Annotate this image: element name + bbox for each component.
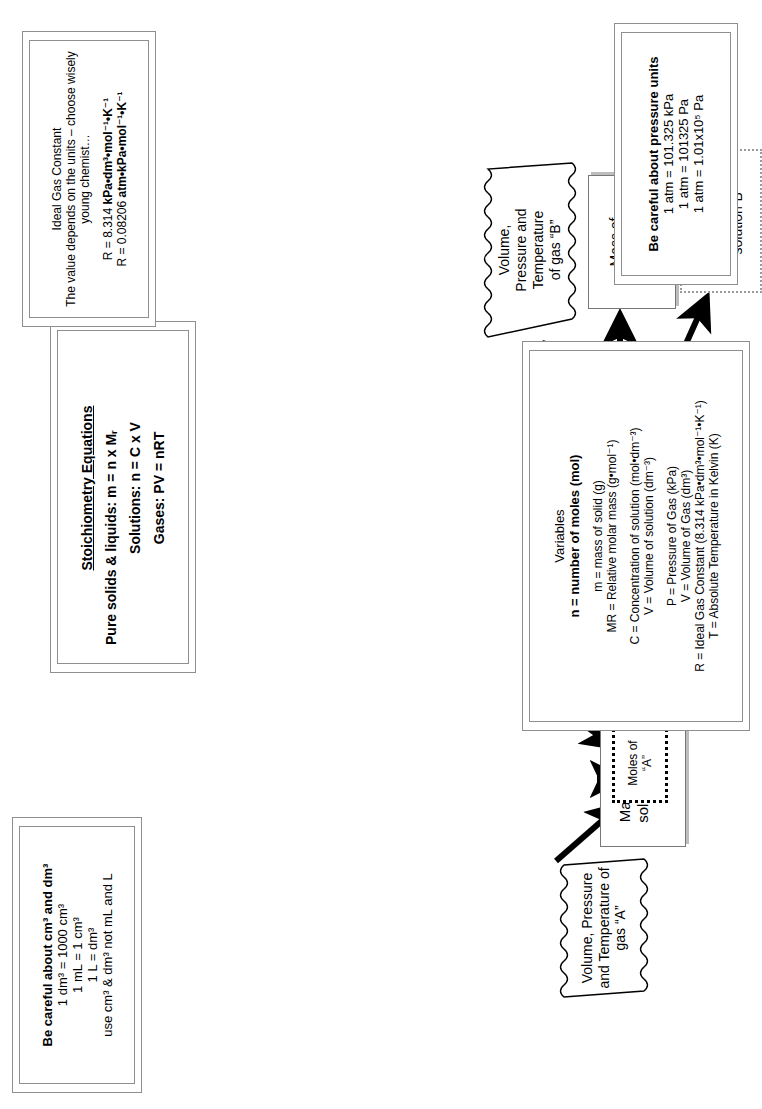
panel-equations-title: Stoichiometry Equations bbox=[79, 406, 95, 571]
panel-gas-constant-line-0: The value depends on the units – choose … bbox=[64, 51, 78, 307]
panel-variables-headline: n = number of moles (mol) bbox=[567, 455, 582, 618]
panel-variables-g3-1: V = Volume of Gas (dm³) bbox=[679, 470, 693, 602]
panel-pressure-units-line-0: 1 atm = 101.325 kPa bbox=[661, 94, 676, 214]
gas-constant-1-bold: atm•kPa•mol⁻¹•K⁻¹ bbox=[115, 91, 129, 197]
panel-pressure-units-line-2: 1 atm = 1.01x10⁵ Pa bbox=[691, 95, 706, 214]
node-gas-b-label: Volume, Pressure and Temperature of gas … bbox=[480, 159, 580, 341]
panel-variables-g2-0: C = Concentration of solution (mol•dm⁻³) bbox=[628, 428, 642, 645]
node-moles-a-line2: “A” bbox=[640, 755, 654, 771]
panel-gas-constant-value-1: R = 0.08206 atm•kPa•mol⁻¹•K⁻¹ bbox=[115, 91, 129, 266]
gas-constant-0-prefix: R = 8.314 bbox=[101, 204, 115, 260]
panel-variables-title: Variables bbox=[552, 509, 567, 562]
panel-gas-constant: Ideal Gas Constant The value depends on … bbox=[22, 31, 156, 327]
node-gas-b[interactable]: Volume, Pressure and Temperature of gas … bbox=[480, 159, 580, 341]
gas-constant-1-prefix: R = 0.08206 bbox=[115, 197, 129, 266]
panel-equations: Stoichiometry Equations Pure solids & li… bbox=[50, 321, 196, 673]
panel-volume-units-line-0: 1 dm³ = 1000 cm³ bbox=[55, 904, 70, 1006]
panel-variables: Variables n = number of moles (mol) m = … bbox=[522, 341, 750, 731]
node-gas-a[interactable]: Volume, Pressure and Temperature of gas … bbox=[556, 855, 652, 1001]
panel-equations-line-0: Pure solids & liquids: m = n x Mᵣ bbox=[103, 430, 119, 645]
panel-pressure-units: Be careful about pressure units 1 atm = … bbox=[614, 23, 738, 285]
panel-variables-g1-0: m = mass of solid (g) bbox=[591, 480, 605, 592]
panel-variables-g3-0: P = Pressure of Gas (kPa) bbox=[665, 466, 679, 606]
panel-pressure-units-title: Be careful about pressure units bbox=[646, 56, 661, 251]
node-gas-a-label: Volume, Pressure and Temperature of gas … bbox=[556, 855, 652, 1001]
gas-constant-0-bold: kPa•dm³•mol⁻¹•K⁻¹ bbox=[101, 98, 115, 205]
panel-variables-g2-1: V = Volume of solution (dm⁻³) bbox=[642, 457, 656, 615]
panel-gas-constant-value-0: R = 8.314 kPa•dm³•mol⁻¹•K⁻¹ bbox=[101, 98, 115, 260]
panel-gas-constant-title: Ideal Gas Constant bbox=[50, 128, 64, 231]
node-moles-a-line1: Moles of bbox=[626, 740, 640, 785]
panel-volume-units: Be careful about cm³ and dm³ 1 dm³ = 100… bbox=[12, 817, 142, 1093]
panel-pressure-units-line-1: 1 atm = 101325 Pa bbox=[676, 99, 691, 209]
panel-volume-units-title: Be careful about cm³ and dm³ bbox=[40, 864, 55, 1047]
panel-equations-line-2: Gases: PV = nRT bbox=[151, 432, 167, 544]
panel-volume-units-line-3: use cm³ & dm³ not mL and L bbox=[100, 873, 115, 1037]
panel-gas-constant-line-1: young chemist… bbox=[78, 134, 92, 223]
panel-volume-units-line-2: 1 L = dm³ bbox=[85, 928, 100, 983]
panel-volume-units-line-1: 1 mL = 1 cm³ bbox=[70, 917, 85, 993]
panel-variables-g3-3: T = Absolute Temperature in Kelvin (K) bbox=[707, 433, 721, 638]
panel-variables-g3-2: R = Ideal Gas Constant (8.314 kPa•dm³•mo… bbox=[693, 400, 707, 672]
panel-equations-line-1: Solutions: n = C x V bbox=[127, 422, 143, 554]
node-moles-a[interactable]: Moles of “A” bbox=[612, 723, 668, 803]
panel-variables-g1-1: MR = Relative molar mass (g•mol⁻¹) bbox=[605, 440, 619, 633]
